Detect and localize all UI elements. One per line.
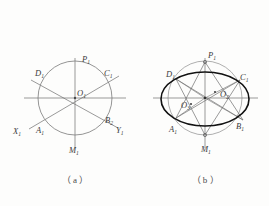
label-X1: X1	[12, 126, 21, 137]
label-D1: D1	[165, 69, 175, 80]
label-Y1: Y1	[116, 125, 124, 136]
arc-center-o3	[190, 103, 192, 105]
label-P1: P1	[81, 54, 90, 65]
label-B1: B2	[105, 115, 113, 126]
label-O2: O2	[220, 89, 229, 100]
panel-b-group: P1 C1 D1 O2 O3 A1 B1 M1	[153, 50, 258, 155]
center-point-o1	[74, 97, 76, 99]
drawing-sheet: P1 C1 D1 O1 X1 A1 B2 Y1 M1	[0, 0, 269, 206]
arc-center-o2	[214, 91, 216, 93]
label-D1: D1	[34, 68, 44, 79]
label-O1: O1	[77, 88, 86, 99]
caption-b: （ b ）	[192, 175, 219, 185]
label-C1: C1	[104, 68, 113, 79]
panel-a-group: P1 C1 D1 O1 X1 A1 B2 Y1 M1	[12, 54, 126, 156]
label-P1: P1	[207, 50, 216, 61]
label-C1: C1	[240, 72, 249, 83]
label-A1: A1	[35, 125, 44, 136]
label-B1: B1	[236, 121, 244, 132]
label-O3: O3	[181, 100, 190, 111]
radius-center-d1	[176, 79, 205, 98]
label-M1: M1	[68, 145, 79, 156]
label-M1: M1	[200, 144, 211, 155]
caption-a: （ a ）	[62, 175, 89, 185]
label-A1: A1	[168, 124, 177, 135]
technical-drawing-canvas: P1 C1 D1 O1 X1 A1 B2 Y1 M1	[0, 0, 269, 206]
center-point-o1-b	[204, 97, 207, 100]
